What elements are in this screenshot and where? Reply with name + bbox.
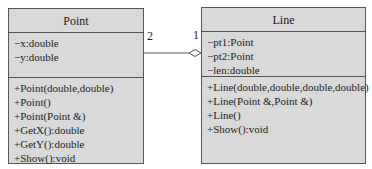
class-point[interactable]: Point −x:double −y:double +Point(double,… [8,8,144,164]
operation: +Point() [14,95,143,109]
operations-compartment: +Point(double,double) +Point() +Point(Po… [9,78,143,165]
operation: +GetX():double [14,123,143,137]
operation: +Show():void [207,122,365,136]
aggregation-diamond-icon [189,50,201,57]
operation: +Point(Point &) [14,109,143,123]
attribute: −len:double [207,63,365,77]
point-multiplicity: 2 [147,29,153,44]
attribute: −pt1:Point [207,35,365,49]
operation: +Line(double,double,double,double) [207,80,365,94]
operation: +Line(Point &,Point &) [207,94,365,108]
attribute: −x:double [14,36,143,50]
attribute: −y:double [14,50,143,64]
class-name: Point [9,9,143,33]
operation: +GetY():double [14,137,143,151]
operations-compartment: +Line(double,double,double,double) +Line… [202,77,365,136]
attributes-compartment: −x:double −y:double [9,33,143,78]
class-line[interactable]: Line −pt1:Point −pt2:Point −len:double +… [201,7,366,164]
line-multiplicity: 1 [193,28,199,43]
operation: +Show():void [14,151,143,165]
class-name: Line [202,8,365,32]
operation: +Point(double,double) [14,81,143,95]
attribute: −pt2:Point [207,49,365,63]
operation: +Line() [207,108,365,122]
attributes-compartment: −pt1:Point −pt2:Point −len:double [202,32,365,77]
